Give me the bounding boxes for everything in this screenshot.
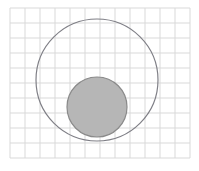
small-circle <box>67 77 127 137</box>
figure-container <box>0 0 199 171</box>
geometry-figure <box>0 0 199 171</box>
